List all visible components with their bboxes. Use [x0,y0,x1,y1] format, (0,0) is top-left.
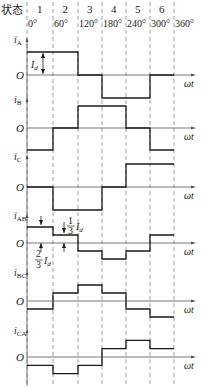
omega-t-label: ωt [184,246,194,257]
state-number: 5 [135,3,141,15]
angle-label: 180° [103,18,122,29]
origin-label: O [16,181,24,193]
origin-label: O [16,122,24,134]
state-number: 2 [63,3,69,15]
state-number: 3 [87,3,93,15]
state-number: 4 [111,3,117,15]
series-label: iCA [14,325,27,338]
x-axis-arrow-icon [191,74,196,77]
plot-iA: iAOωt [14,34,196,102]
origin-label: O [16,351,24,363]
series-label: iBC [14,267,26,280]
origin-label: O [16,237,24,249]
state-label: 状态 [1,3,23,16]
state-numbers: 123456 [37,3,165,15]
plot-iB: iBOωt [14,94,196,154]
omega-t-label: ωt [184,304,194,315]
annotations: Id 2 3 Id 1 3 Id [30,53,83,270]
svg-text:3: 3 [68,225,73,236]
omega-t-label: ωt [184,78,194,89]
origin-label: O [16,69,24,81]
id-dimension-arrow: Id [30,53,45,74]
angle-label: 60° [54,18,68,29]
x-axis-arrow-icon [191,300,196,303]
id-label: Id [30,59,38,72]
waveform-svg: 状态 123456 0°60°120°180°240°300°360° iAOω… [0,0,201,386]
state-number: 6 [159,3,165,15]
y-axis-arrow-icon [26,154,29,159]
series-label: iB [14,94,22,107]
svg-text:2: 2 [36,248,41,259]
one-third-id-label: Id [75,221,83,234]
origin-label: O [16,295,24,307]
dashed-gridlines [27,2,174,384]
angle-label: 240° [127,18,146,29]
series-label: iC [14,151,22,164]
omega-t-label: ωt [184,360,194,371]
state-number: 1 [37,3,43,15]
plot-iC: iCOωt [14,151,196,214]
x-axis-arrow-icon [191,127,196,130]
plot-iCA: iCAOωt [14,325,196,386]
omega-t-label: ωt [184,190,194,201]
omega-t-label: ωt [184,131,194,142]
plot-iBC: iBCOωt [14,267,196,329]
one-third-id-arrow: 1 3 Id [62,215,83,252]
svg-text:3: 3 [36,259,41,270]
waveform-diagram: 状态 123456 0°60°120°180°240°300°360° iAOω… [0,0,201,386]
angle-label: 360° [175,18,194,29]
two-thirds-id-label: Id [43,255,51,268]
y-axis-arrow-icon [26,97,29,102]
angle-label: 0° [28,18,37,29]
x-axis-arrow-icon [191,186,196,189]
x-axis-arrow-icon [191,242,196,245]
series-label: iAB [14,210,27,223]
x-axis-arrow-icon [191,356,196,359]
angle-label: 120° [79,18,98,29]
plots: iAOωtiBOωtiCOωtiABOωtiBCOωtiCAOωt [14,34,196,386]
y-axis-arrow-icon [26,37,29,42]
angle-label: 300° [151,18,170,29]
series-label: iA [14,34,22,47]
